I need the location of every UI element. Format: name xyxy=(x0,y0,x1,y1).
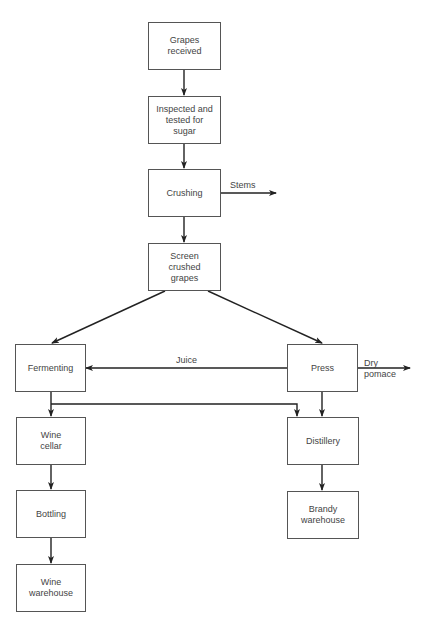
node-press: Press xyxy=(287,344,358,392)
node-screen-crushed-grapes: Screen crushed grapes xyxy=(148,243,221,291)
node-crushing: Crushing xyxy=(148,169,221,217)
edge-screen-to-fermenting xyxy=(52,291,165,343)
node-label: Press xyxy=(311,363,334,374)
node-label: Grapes received xyxy=(167,35,201,57)
node-wine-cellar: Wine cellar xyxy=(16,417,86,465)
node-label: Screen crushed grapes xyxy=(168,251,200,284)
edge-label-dry-pomace: Dry pomace xyxy=(364,358,396,380)
node-label: Bottling xyxy=(36,509,66,520)
node-label: Wine cellar xyxy=(40,430,62,452)
node-inspected-tested: Inspected and tested for sugar xyxy=(148,96,221,144)
edge-screen-to-press xyxy=(208,291,322,343)
node-fermenting: Fermenting xyxy=(15,344,86,392)
node-label: Distillery xyxy=(306,436,340,447)
node-label: Brandy warehouse xyxy=(301,504,345,526)
node-label: Inspected and tested for sugar xyxy=(156,104,213,137)
node-label: Fermenting xyxy=(28,363,74,374)
node-grapes-received: Grapes received xyxy=(148,22,221,70)
edge-fermenting-to-distillery xyxy=(51,404,297,416)
edge-label-juice: Juice xyxy=(176,355,197,366)
node-label: Crushing xyxy=(166,188,202,199)
node-wine-warehouse: Wine warehouse xyxy=(16,564,86,612)
node-brandy-warehouse: Brandy warehouse xyxy=(287,491,359,539)
node-bottling: Bottling xyxy=(16,490,86,538)
node-label: Wine warehouse xyxy=(29,577,73,599)
edge-label-stems: Stems xyxy=(230,180,256,191)
node-distillery: Distillery xyxy=(287,417,359,465)
